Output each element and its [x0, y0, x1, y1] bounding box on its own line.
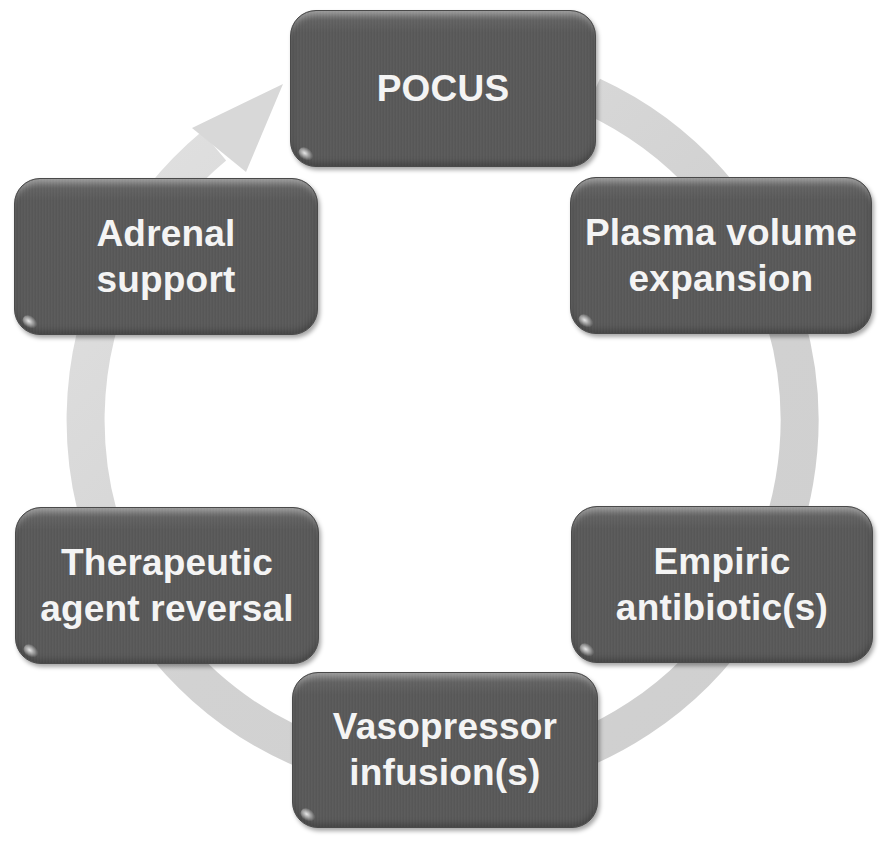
- cycle-step-label: Adrenal support: [88, 211, 243, 303]
- cycle-step-therapeutic-agent-reversal: Therapeutic agent reversal: [15, 507, 319, 664]
- cycle-step-label: Vasopressor infusion(s): [325, 704, 565, 796]
- cycle-step-empiric-antibiotics: Empiric antibiotic(s): [571, 506, 873, 663]
- cycle-step-plasma-volume-expansion: Plasma volume expansion: [570, 177, 872, 334]
- cycle-step-label: POCUS: [369, 66, 518, 112]
- cycle-step-adrenal-support: Adrenal support: [14, 178, 318, 335]
- cycle-step-label: Empiric antibiotic(s): [608, 539, 836, 631]
- cycle-step-label: Plasma volume expansion: [577, 210, 865, 302]
- cycle-step-label: Therapeutic agent reversal: [32, 540, 302, 632]
- cycle-step-pocus: POCUS: [290, 10, 596, 167]
- cycle-step-vasopressor-infusions: Vasopressor infusion(s): [292, 672, 598, 828]
